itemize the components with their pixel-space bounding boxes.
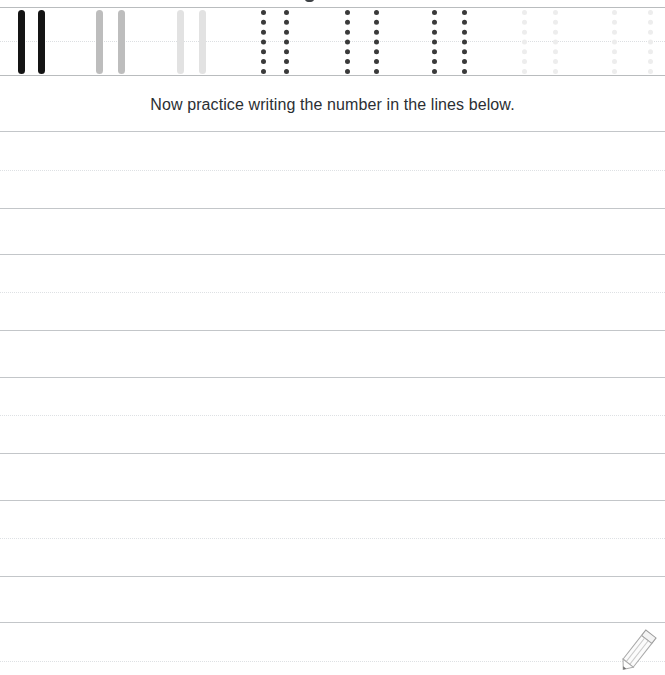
practice-line-7	[0, 377, 665, 378]
practice-line-3	[0, 208, 665, 209]
tracing-band	[0, 0, 665, 82]
practice-line-8	[0, 415, 665, 416]
practice-line-5	[0, 292, 665, 293]
trace-stroke-10	[374, 10, 379, 74]
practice-line-4	[0, 254, 665, 255]
trace-stroke-8	[284, 10, 289, 74]
practice-line-6	[0, 330, 665, 331]
practice-line-14	[0, 661, 665, 662]
trace-stroke-1	[18, 10, 25, 74]
worksheet-page: Now practice writing the number in the l…	[0, 0, 665, 675]
practice-line-12	[0, 576, 665, 577]
practice-line-13	[0, 622, 665, 623]
trace-stroke-15	[612, 10, 617, 74]
band-baseline-top	[0, 7, 665, 8]
trace-stroke-7	[261, 10, 266, 74]
band-baseline-bottom	[0, 75, 665, 76]
practice-line-2	[0, 170, 665, 171]
trace-stroke-14	[553, 10, 558, 74]
practice-line-1	[0, 131, 665, 132]
practice-line-11	[0, 538, 665, 539]
trace-stroke-9	[345, 10, 350, 74]
instruction-text: Now practice writing the number in the l…	[0, 96, 665, 114]
trace-stroke-4	[118, 10, 125, 74]
trace-stroke-5	[177, 10, 184, 74]
practice-line-10	[0, 500, 665, 501]
trace-stroke-11	[432, 10, 437, 74]
trace-stroke-12	[462, 10, 467, 74]
trace-stroke-13	[522, 10, 527, 74]
pencil-icon	[611, 627, 663, 675]
trace-stroke-3	[96, 10, 103, 74]
practice-line-9	[0, 453, 665, 454]
clipped-glyph-above	[305, 0, 314, 2]
trace-stroke-2	[38, 10, 45, 74]
trace-stroke-6	[199, 10, 206, 74]
trace-stroke-16	[648, 10, 653, 74]
